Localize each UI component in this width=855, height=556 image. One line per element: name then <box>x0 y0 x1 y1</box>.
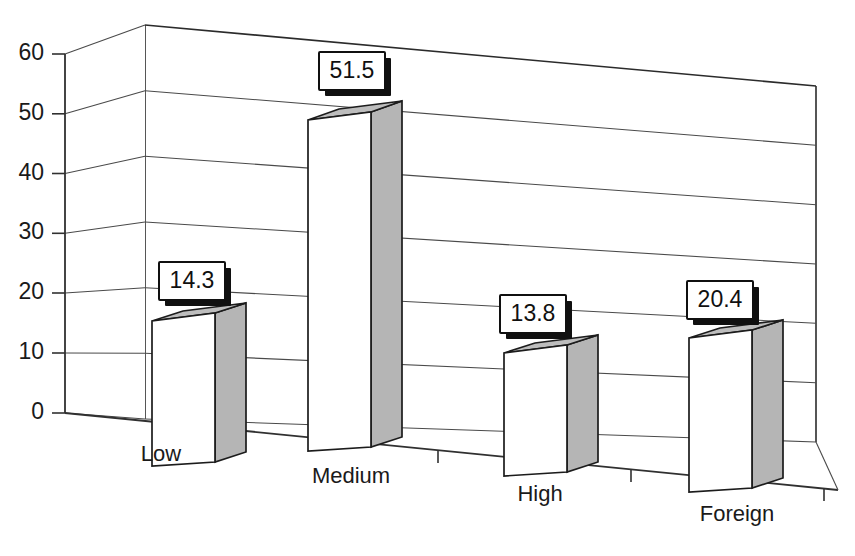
y-tick-label-50: 50 <box>18 99 44 125</box>
y-tick-label-40: 40 <box>18 159 44 185</box>
value-label-high-text: 13.8 <box>511 300 556 326</box>
bar-low-side <box>215 303 246 462</box>
bar-medium-front <box>308 112 371 451</box>
category-label-foreign: Foreign <box>700 501 775 526</box>
bar-high-front <box>504 345 567 476</box>
value-label-foreign-text: 20.4 <box>698 286 743 312</box>
value-label-low: 14.3 <box>159 262 231 306</box>
value-label-foreign: 20.4 <box>687 281 759 325</box>
chart-canvas: 60 50 40 30 20 10 0 <box>0 0 855 556</box>
value-label-medium-text: 51.5 <box>330 57 375 83</box>
bar-high[interactable] <box>504 335 598 476</box>
bar-medium[interactable] <box>308 101 402 451</box>
category-label-high: High <box>517 481 562 506</box>
y-axis: 60 50 40 30 20 10 0 <box>18 39 65 424</box>
y-tick-label-60: 60 <box>18 39 44 65</box>
y-tick-label-20: 20 <box>18 278 44 304</box>
bar-foreign[interactable] <box>689 320 783 492</box>
bar-medium-side <box>371 101 402 447</box>
value-label-medium: 51.5 <box>319 52 391 96</box>
y-tick-label-10: 10 <box>18 338 44 364</box>
bar-foreign-side <box>752 320 783 488</box>
left-side-wall <box>65 25 145 419</box>
value-label-high: 13.8 <box>500 295 572 339</box>
category-label-medium: Medium <box>312 463 390 488</box>
bar-high-side <box>567 335 598 472</box>
bar-chart-3d: 60 50 40 30 20 10 0 <box>0 0 855 556</box>
y-tick-label-30: 30 <box>18 218 44 244</box>
left-wall-face <box>65 25 145 419</box>
category-label-low: Low <box>141 441 181 466</box>
y-tick-label-0: 0 <box>31 398 44 424</box>
value-label-low-text: 14.3 <box>170 267 215 293</box>
bar-foreign-front <box>689 330 752 492</box>
